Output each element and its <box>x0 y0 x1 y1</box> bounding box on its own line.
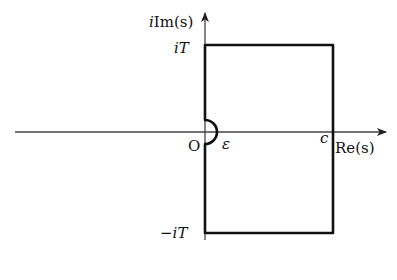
real-axis-label: Re(s) <box>335 139 375 157</box>
bottom-label-minus-iT: −iT <box>160 224 188 242</box>
c-label: c <box>320 129 329 147</box>
top-label-iT: iT <box>174 39 190 57</box>
imaginary-axis-label: iIm(s) <box>149 13 193 31</box>
origin-label: O <box>188 137 200 155</box>
epsilon-label: ε <box>222 135 230 153</box>
contour-diagram: iIm(s) Re(s) iT −iT O ε c <box>0 0 397 280</box>
